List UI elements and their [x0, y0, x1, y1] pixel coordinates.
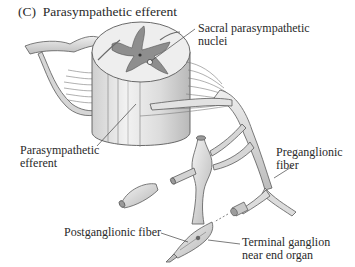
spinal-cord-segment [92, 22, 190, 147]
figure-title: (C) Parasympathetic efferent [18, 4, 177, 20]
preganglionic-fiber [229, 188, 296, 217]
label-postganglionic-fiber: Postganglionic fiber [64, 226, 161, 239]
dashed-fiber-continuation [214, 214, 228, 222]
detached-ganglion [118, 184, 158, 209]
label-preganglionic-fiber: Preganglionic fiber [276, 146, 343, 172]
title-text: Parasympathetic efferent [43, 4, 177, 19]
terminal-ganglion [172, 222, 213, 258]
sympathetic-chain-ganglion [170, 136, 212, 224]
label-parasympathetic-efferent: Parasympathetic efferent [20, 144, 99, 170]
label-terminal-ganglion: Terminal ganglion near end organ [242, 236, 330, 262]
panel-letter: (C) [18, 4, 36, 19]
postganglionic-fiber [166, 254, 177, 262]
label-sacral-parasympathetic-nuclei: Sacral parasympathetic nuclei [198, 22, 310, 48]
diagram-stage: (C) Parasympathetic efferent Sacral para… [0, 0, 355, 267]
